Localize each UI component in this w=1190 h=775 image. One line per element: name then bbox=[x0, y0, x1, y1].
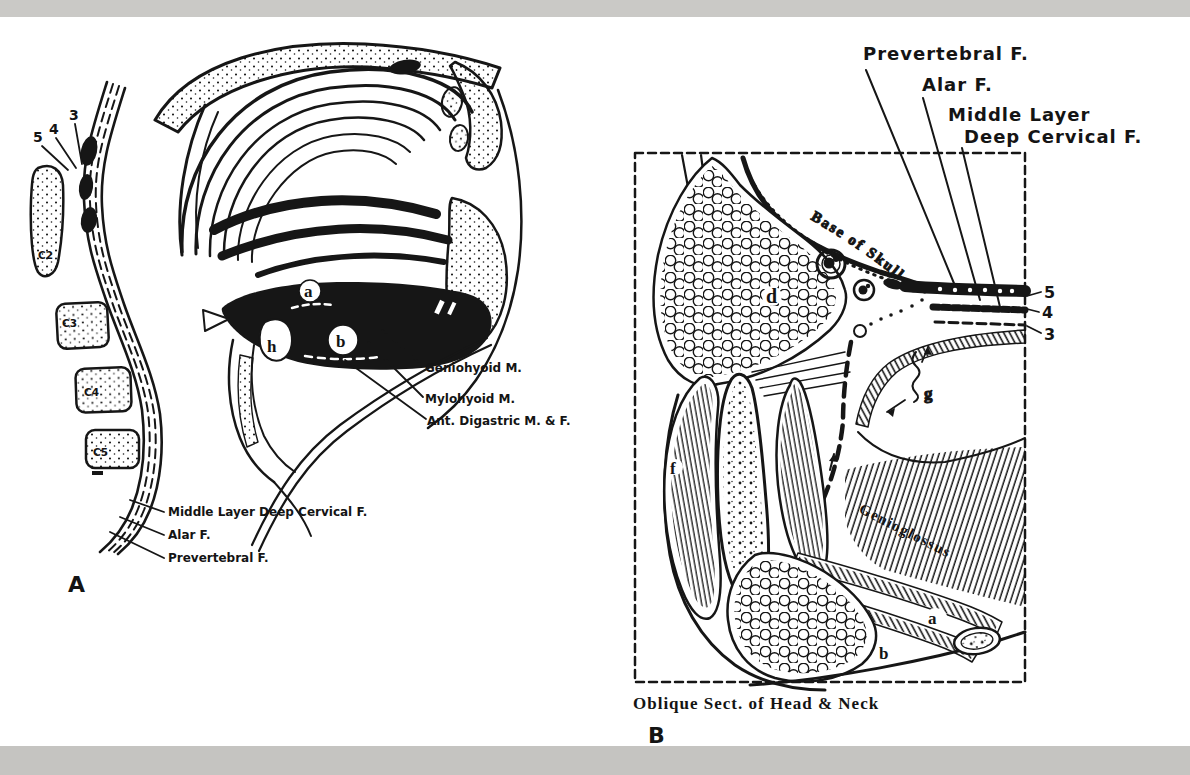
letter-f-b: f bbox=[670, 459, 676, 478]
letter-d-b: d bbox=[766, 285, 777, 307]
letter-b-b: b bbox=[879, 644, 888, 663]
letter-g-b: g bbox=[924, 384, 933, 403]
letter-a-b: a bbox=[928, 609, 937, 628]
number-4-b: 4 bbox=[1042, 303, 1053, 322]
label-geniohyoid: Geniohyoid M. bbox=[425, 361, 522, 375]
anatomy-figure: C2 C3 C4 C5 5 4 3 bbox=[0, 0, 1190, 775]
vertebra-label-c4: C4 bbox=[84, 386, 99, 398]
label-mldcf-a: Middle Layer Deep Cervical F. bbox=[168, 505, 367, 519]
letter-b-a: b bbox=[336, 332, 345, 351]
lymph-node-blob bbox=[77, 173, 94, 201]
number-5-a: 5 bbox=[33, 129, 43, 145]
label-mylohyoid: Mylohyoid M. bbox=[425, 392, 515, 406]
number-3-a: 3 bbox=[69, 107, 79, 123]
label-deep-cervical-b: Deep Cervical F. bbox=[964, 126, 1142, 147]
scan-border-top bbox=[0, 0, 1190, 17]
letter-a-a: a bbox=[304, 282, 313, 301]
fascial-bands-b bbox=[905, 286, 1041, 333]
number-4-a: 4 bbox=[49, 121, 59, 137]
tongue-contours bbox=[182, 69, 472, 275]
number-leader-lines-b bbox=[1027, 292, 1041, 333]
panel-letter-a: A bbox=[68, 572, 85, 597]
caption-b: Oblique Sect. of Head & Neck bbox=[633, 694, 879, 713]
below-c5-mark bbox=[92, 471, 103, 475]
number-5-b: 5 bbox=[1044, 283, 1055, 302]
epiglottis-strip bbox=[238, 355, 258, 447]
styloid-circle bbox=[854, 325, 866, 337]
label-ant-digastric: Ant. Digastric M. & F. bbox=[427, 414, 571, 428]
panel-b: Prevertebral F. Alar F. Middle Layer Dee… bbox=[633, 43, 1142, 748]
label-alar-a: Alar F. bbox=[168, 528, 211, 542]
number-leader-lines-a bbox=[42, 124, 82, 170]
fascia-labels-b: Prevertebral F. Alar F. Middle Layer Dee… bbox=[863, 43, 1142, 307]
fascia-labels-a: Middle Layer Deep Cervical F. Alar F. Pr… bbox=[110, 500, 367, 565]
panel-letter-b: B bbox=[648, 723, 665, 748]
parotid-gland: d bbox=[653, 158, 846, 386]
letter-h-a: h bbox=[267, 337, 277, 356]
layer-numbers-b: 5 4 3 bbox=[1042, 283, 1055, 344]
label-middle-layer-b: Middle Layer bbox=[948, 104, 1090, 125]
number-3-b: 3 bbox=[1044, 325, 1055, 344]
panel-a: C2 C3 C4 C5 5 4 3 bbox=[31, 44, 571, 597]
dotted-trail bbox=[869, 298, 924, 326]
label-prevertebral-a: Prevertebral F. bbox=[168, 551, 269, 565]
vertebra-label-c3: C3 bbox=[62, 317, 77, 329]
label-prevertebral-b: Prevertebral F. bbox=[863, 43, 1029, 64]
layer-numbers-a: 5 4 3 bbox=[33, 107, 82, 170]
scanned-figure-page: C2 C3 C4 C5 5 4 3 bbox=[0, 0, 1190, 775]
vertebra-label-c5: C5 bbox=[93, 446, 108, 458]
vertebra-label-c2: C2 bbox=[38, 249, 53, 261]
scan-border-bottom bbox=[0, 746, 1190, 775]
teeth-region bbox=[448, 124, 469, 152]
label-alar-b: Alar F. bbox=[922, 74, 993, 95]
